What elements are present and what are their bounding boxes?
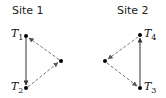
precedence-graph bbox=[0, 0, 166, 98]
site-1-graph bbox=[24, 34, 63, 90]
node-t4 bbox=[138, 33, 142, 37]
node-p1 bbox=[59, 59, 63, 63]
node-t3 bbox=[138, 86, 142, 90]
edge-t4-p2 bbox=[108, 37, 138, 59]
edge-p1-t1 bbox=[29, 38, 59, 60]
node-t1 bbox=[24, 34, 28, 38]
node-t2 bbox=[24, 86, 28, 90]
node-p2 bbox=[103, 59, 107, 63]
edge-p2-t3 bbox=[107, 63, 137, 86]
edge-t2-p1 bbox=[28, 63, 58, 88]
site-2-graph bbox=[103, 33, 142, 90]
